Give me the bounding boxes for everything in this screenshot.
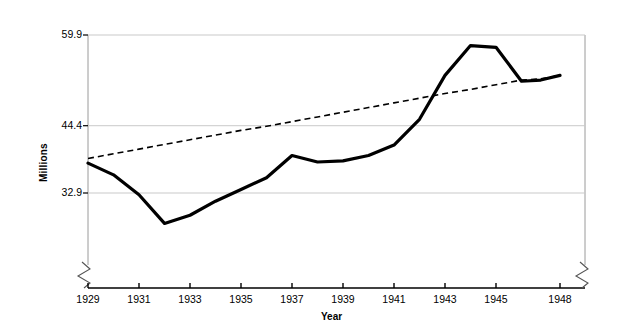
axis-break-right-icon [576,262,588,288]
y-axis-ticks [83,35,88,193]
x-tick-label: 1941 [372,293,416,305]
x-tick-label: 1939 [321,293,365,305]
series-line-trend [88,75,560,158]
chart-container: 32.944.459.9 192919311933193519371939194… [0,0,619,332]
x-tick-label: 1935 [219,293,263,305]
x-tick-label: 1929 [66,293,110,305]
x-tick-label: 1948 [538,293,582,305]
x-axis-title: Year [321,311,342,322]
y-tick-label: 59.9 [34,28,82,40]
x-tick-label: 1943 [423,293,467,305]
y-tick-label: 44.4 [34,119,82,131]
line-chart-plot [0,0,619,332]
x-tick-label: 1931 [117,293,161,305]
series-line-employment [88,46,560,224]
x-tick-label: 1945 [474,293,518,305]
plot-frame [88,35,585,265]
x-tick-label: 1933 [168,293,212,305]
y-axis-title: Millions [38,143,49,182]
y-tick-label: 32.9 [34,186,82,198]
x-tick-label: 1937 [270,293,314,305]
